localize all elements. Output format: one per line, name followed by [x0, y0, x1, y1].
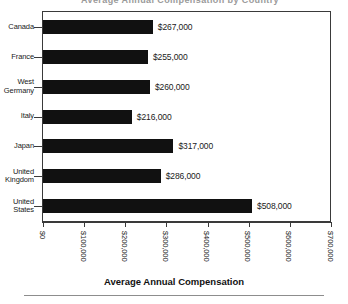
footer-rule	[24, 295, 324, 296]
bar	[43, 80, 150, 94]
category-label-line: Canada	[8, 23, 34, 32]
category-label-line: States	[13, 206, 34, 215]
x-axis-tick-label: $100,000	[79, 231, 88, 261]
bar	[43, 139, 173, 153]
x-axis-tick-label: $400,000	[202, 231, 211, 261]
x-axis-tick-label: $200,000	[120, 231, 129, 261]
x-axis-line	[42, 222, 332, 223]
bar-row: $267,000	[43, 20, 331, 34]
category-label: UnitedStates	[13, 198, 34, 215]
x-axis-tick	[290, 222, 291, 227]
bar-value-label: $260,000	[155, 82, 190, 92]
x-axis-tick-label: $700,000	[326, 231, 335, 261]
x-axis-tick-label: $0	[38, 231, 47, 239]
bar	[43, 50, 148, 64]
bar-value-label: $508,000	[257, 201, 292, 211]
clipped-chart-title-text: Average Annual Compensation by Country	[60, 0, 300, 5]
category-label-line: France	[11, 53, 34, 62]
category-label: UnitedKingdom	[5, 168, 34, 185]
bar-row: $255,000	[43, 50, 331, 64]
category-tick	[34, 57, 42, 58]
x-axis-tick	[208, 222, 209, 227]
bar-value-label: $286,000	[166, 171, 201, 181]
bar	[43, 199, 252, 213]
category-label: WestGermany	[4, 78, 34, 95]
x-axis-tick	[84, 222, 85, 227]
category-label: Japan	[14, 142, 34, 151]
bar-row: $286,000	[43, 169, 331, 183]
chart-figure: Average Annual Compensation by Country C…	[0, 0, 348, 304]
category-label: Canada	[8, 23, 34, 32]
category-label-line: Kingdom	[5, 176, 34, 185]
category-label: Italy	[21, 112, 34, 121]
category-tick	[34, 27, 42, 28]
x-axis-tick	[249, 222, 250, 227]
bar-row: $260,000	[43, 80, 331, 94]
x-axis-tick	[125, 222, 126, 227]
x-axis-tick-label: $500,000	[243, 231, 252, 261]
bar	[43, 20, 153, 34]
bar	[43, 110, 132, 124]
category-tick	[34, 146, 42, 147]
category-label: France	[11, 53, 34, 62]
bar-row: $317,000	[43, 139, 331, 153]
bar-value-label: $267,000	[158, 22, 193, 32]
category-tick	[34, 87, 42, 88]
bar-value-label: $216,000	[137, 112, 172, 122]
bar-value-label: $317,000	[178, 141, 213, 151]
category-label-line: Japan	[14, 142, 34, 151]
x-axis-tick	[43, 222, 44, 227]
bar-row: $508,000	[43, 199, 331, 213]
bar-value-label: $255,000	[153, 52, 188, 62]
x-axis-tick-label: $300,000	[161, 231, 170, 261]
clipped-chart-title: Average Annual Compensation by Country	[60, 0, 300, 5]
category-tick	[34, 176, 42, 177]
x-axis-tick	[166, 222, 167, 227]
x-axis-tick-label: $600,000	[284, 231, 293, 261]
category-tick	[34, 117, 42, 118]
category-label-line: Germany	[4, 87, 34, 96]
category-tick	[34, 206, 42, 207]
bar-row: $216,000	[43, 110, 331, 124]
category-label-line: Italy	[21, 112, 34, 121]
x-axis-tick	[331, 222, 332, 227]
category-axis: CanadaFranceWestGermanyItalyJapanUnitedK…	[0, 12, 42, 221]
bar	[43, 169, 161, 183]
x-axis-title: Average Annual Compensation	[0, 276, 348, 287]
bars-layer: $267,000$255,000$260,000$216,000$317,000…	[43, 12, 331, 221]
